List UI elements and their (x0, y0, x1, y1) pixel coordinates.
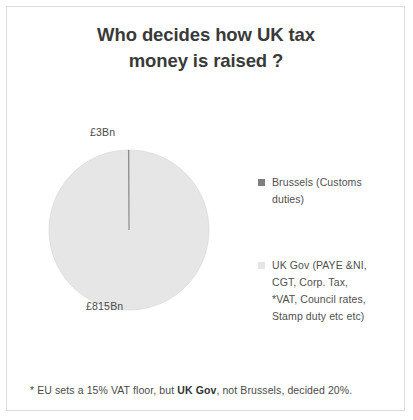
legend-label-ukgov-line-3: *VAT, Council rates, (272, 291, 406, 308)
legend-entry-ukgov[interactable]: UK Gov (PAYE &NI, CGT, Corp. Tax, *VAT, … (258, 257, 406, 325)
slice-data-label-brussels: £3Bn (90, 126, 115, 138)
pie-chart-card: Who decides how UK tax money is raised ?… (0, 0, 413, 420)
chart-title: Who decides how UK tax money is raised ? (20, 22, 392, 75)
slice-data-label-ukgov: £815Bn (86, 300, 123, 312)
chart-legend: Brussels (Customs duties) UK Gov (PAYE &… (258, 174, 406, 325)
legend-label-ukgov-line-2: CGT, Corp. Tax, (272, 274, 406, 291)
legend-swatch-brussels (258, 179, 265, 186)
legend-label-brussels-line-2: duties) (272, 191, 406, 208)
pie-chart (47, 148, 211, 312)
chart-title-line-1: Who decides how UK tax (20, 22, 392, 48)
legend-label-ukgov-line-1: UK Gov (PAYE &NI, (272, 257, 406, 274)
pie-svg (47, 148, 211, 312)
plot-area: £3Bn £815Bn (8, 112, 244, 360)
footnote-part-2: , not Brussels, decided 20%. (216, 384, 352, 396)
chart-footnote: * EU sets a 15% VAT floor, but UK Gov, n… (30, 384, 400, 396)
legend-swatch-ukgov (258, 262, 265, 269)
footnote-part-1: * EU sets a 15% VAT floor, but (30, 384, 177, 396)
chart-title-line-2: money is raised ? (20, 48, 392, 74)
legend-label-brussels-line-1: Brussels (Customs (272, 174, 406, 191)
footnote-emphasis: UK Gov (177, 384, 216, 396)
legend-label-ukgov-line-4: Stamp duty etc etc) (272, 308, 406, 325)
legend-entry-brussels[interactable]: Brussels (Customs duties) (258, 174, 406, 208)
